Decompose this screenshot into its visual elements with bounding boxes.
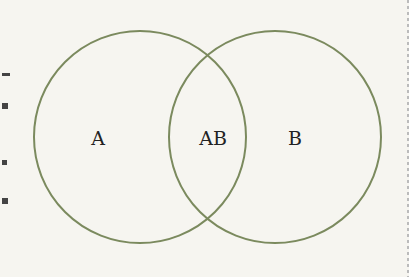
margin-text-fragment <box>2 103 8 109</box>
label-ab-intersection: AB <box>199 127 227 149</box>
label-a: A <box>91 127 105 149</box>
label-b: B <box>288 127 302 149</box>
margin-text-fragment <box>2 198 8 204</box>
margin-text-fragment <box>2 73 10 76</box>
margin-text-fragment <box>2 160 7 165</box>
